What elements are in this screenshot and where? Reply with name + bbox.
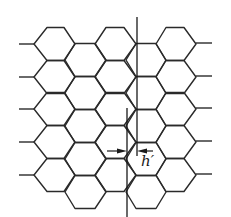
hexagon-lattice bbox=[34, 28, 196, 209]
hexagon-cell bbox=[65, 77, 106, 110]
hexagon-cell bbox=[156, 28, 196, 61]
lattice-edge-stubs bbox=[19, 43, 212, 175]
dimension-label-h-prime: h′ bbox=[141, 154, 154, 169]
hexagon-cell bbox=[95, 28, 136, 61]
hexagon-cell bbox=[34, 28, 75, 61]
left-dimension-arrow-head-icon bbox=[117, 149, 127, 154]
honeycomb-diagram bbox=[0, 0, 231, 217]
